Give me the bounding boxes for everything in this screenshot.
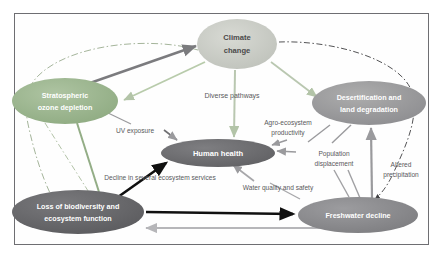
node-desertification-and-land-degradation[interactable]: Desertification and land degradation bbox=[312, 81, 426, 125]
edge-label-population-displacement-line2: displacement bbox=[315, 160, 354, 168]
node-loss-of-biodiversity-label-line1: Loss of biodiversity and bbox=[37, 202, 120, 211]
node-human-health-label: Human health bbox=[193, 149, 244, 158]
node-desertification-and-land-degradation-shape[interactable] bbox=[312, 81, 426, 125]
node-freshwater-decline[interactable]: Freshwater decline bbox=[298, 197, 418, 233]
edge-agro-productivity-to-health-upper bbox=[272, 140, 287, 145]
node-freshwater-decline-label: Freshwater decline bbox=[325, 211, 390, 220]
edge-label-water-quality-and-safety: Water quality and safety bbox=[243, 184, 314, 192]
node-loss-of-biodiversity-and-ecosystem-function[interactable]: Loss of biodiversity and ecosystem funct… bbox=[12, 190, 144, 234]
edge-uv-exposure-to-human-health bbox=[164, 130, 177, 140]
edge-water-quality-to-human-health bbox=[233, 165, 254, 181]
node-climate-change-shape[interactable] bbox=[197, 19, 277, 69]
edge-label-decline-in-several-ecosystem-services: Decline in several ecosystem services bbox=[104, 174, 216, 182]
edge-climate-to-desertification bbox=[271, 62, 317, 97]
node-desertification-and-land-degradation-label-line1: Desertification and bbox=[337, 93, 402, 102]
node-loss-of-biodiversity-label-line2: ecosystem function bbox=[44, 214, 112, 223]
edge-agro-to-human-health bbox=[277, 151, 296, 152]
edge-freshwater-to-desertification bbox=[371, 128, 372, 198]
nodes-layer: Climate change Stratospheric ozone deple… bbox=[12, 19, 426, 234]
edge-desertification-to-agro bbox=[308, 125, 330, 142]
edge-population-displacement-link-2 bbox=[348, 170, 360, 198]
edge-ozone-to-biodiversity bbox=[77, 123, 99, 192]
node-stratospheric-ozone-depletion-shape[interactable] bbox=[12, 78, 118, 124]
edge-label-diverse-pathways: Diverse pathways bbox=[204, 92, 260, 100]
node-stratospheric-ozone-depletion-label-line1: Stratospheric bbox=[42, 91, 88, 100]
edge-label-agro-ecosystem-productivity-line1: Agro-ecosystem bbox=[264, 119, 312, 127]
edge-label-population-displacement-line1: Population bbox=[318, 150, 349, 158]
edge-population-displacement-link bbox=[334, 170, 349, 197]
edge-label-altered-precipitation-line2: precipitation bbox=[383, 171, 419, 179]
edge-climate-to-human-health bbox=[234, 70, 235, 137]
node-climate-change[interactable]: Climate change bbox=[197, 19, 277, 69]
edge-desertification-to-freshwater bbox=[332, 125, 351, 143]
edge-label-agro-ecosystem-productivity-line2: productivity bbox=[271, 129, 305, 137]
edge-label-altered-precipitation-line1: Altered bbox=[391, 161, 412, 168]
node-stratospheric-ozone-depletion-label-line2: ozone depletion bbox=[38, 103, 93, 112]
edge-ozone-to-climate bbox=[90, 46, 196, 83]
diagram-frame: Climate change Stratospheric ozone deple… bbox=[0, 0, 443, 261]
node-desertification-and-land-degradation-label-line2: land degradation bbox=[340, 105, 398, 114]
edge-label-uv-exposure: UV exposure bbox=[116, 127, 154, 135]
node-human-health[interactable]: Human health bbox=[161, 139, 275, 167]
edge-biodiversity-to-freshwater bbox=[146, 212, 293, 214]
node-climate-change-label-line2: change bbox=[224, 46, 251, 55]
edge-ozone-to-uv-exposure bbox=[106, 112, 131, 124]
node-stratospheric-ozone-depletion[interactable]: Stratospheric ozone depletion bbox=[12, 78, 118, 124]
node-climate-change-label-line1: Climate bbox=[223, 33, 250, 42]
node-loss-of-biodiversity-and-ecosystem-function-shape[interactable] bbox=[12, 190, 144, 234]
concept-map-canvas: Climate change Stratospheric ozone deple… bbox=[0, 0, 443, 261]
